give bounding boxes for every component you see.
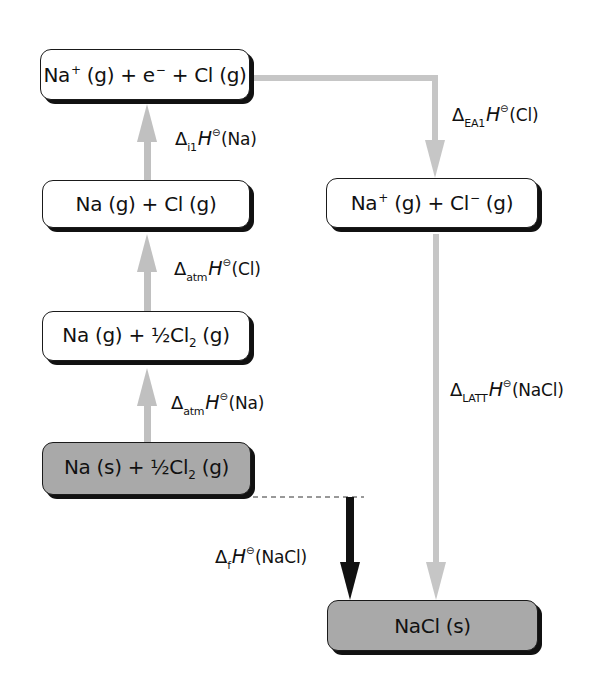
- state-text: NaCl (s): [394, 614, 471, 638]
- born-haber-cycle-diagram: Na+ (g) + e− + Cl (g) Na (g) + Cl (g) Na…: [0, 0, 612, 676]
- state-box-sodium-chloride: NaCl (s): [327, 600, 538, 651]
- state-box-gaseous-ions: Na+ (g) + Cl− (g): [326, 178, 538, 228]
- state-text: Na+ (g) + Cl− (g): [351, 191, 514, 215]
- state-text: Na (s) + ½Cl2 (g): [64, 455, 229, 482]
- label-lattice-enthalpy: ΔLATTH⊖(NaCl): [450, 378, 564, 405]
- arrow-electron-affinity-down: [254, 75, 445, 178]
- state-box-gaseous-atoms: Na (g) + Cl (g): [42, 180, 250, 228]
- state-box-elements: Na (s) + ½Cl2 (g): [42, 442, 251, 495]
- state-text: Na+ (g) + e− + Cl (g): [43, 63, 246, 87]
- label-atomisation-cl: ΔatmH⊖(Cl): [174, 257, 261, 284]
- arrow-lattice-enthalpy-down: [426, 234, 446, 600]
- arrow-ionisation-up: [137, 104, 157, 180]
- state-text: Na (g) + ½Cl2 (g): [62, 323, 229, 350]
- label-electron-affinity: ΔEA1H⊖(Cl): [452, 103, 538, 130]
- arrow-atomisation-na-up: [137, 368, 157, 442]
- label-atomisation-na: ΔatmH⊖(Na): [171, 391, 264, 418]
- label-ionisation-enthalpy: Δi1H⊖(Na): [175, 127, 257, 154]
- state-box-ionised: Na+ (g) + e− + Cl (g): [40, 49, 250, 100]
- state-text: Na (g) + Cl (g): [75, 192, 216, 216]
- state-box-atomised-sodium: Na (g) + ½Cl2 (g): [42, 311, 250, 361]
- label-formation-enthalpy: ΔfH⊖(NaCl): [215, 545, 307, 572]
- arrow-atomisation-cl-up: [137, 234, 157, 311]
- arrow-formation-down: [340, 497, 360, 600]
